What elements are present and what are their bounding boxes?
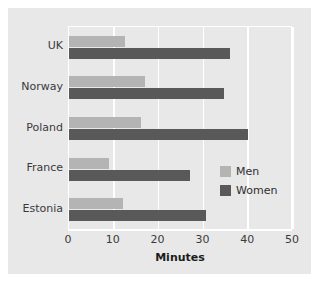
category-label-estonia: Estonia: [23, 202, 64, 215]
bar-group: [69, 76, 291, 99]
bar-men-france: [69, 158, 109, 169]
x-axis-line: [68, 229, 292, 231]
legend-label-men: Men: [236, 165, 259, 178]
bar-men-poland: [69, 117, 141, 128]
bar-group: [69, 36, 291, 59]
bar-group: [69, 117, 291, 140]
x-tick-label-10: 10: [106, 233, 120, 246]
bar-women-uk: [69, 48, 230, 59]
bar-women-norway: [69, 88, 224, 99]
legend-item-women: Women: [220, 181, 292, 200]
bar-men-estonia: [69, 198, 123, 209]
chart-legend: Men Women: [220, 160, 292, 202]
x-axis-title: Minutes: [68, 251, 292, 264]
bar-men-norway: [69, 76, 145, 87]
category-axis-labels: UKNorwayPolandFranceEstonia: [8, 26, 63, 229]
legend-item-men: Men: [220, 162, 292, 181]
legend-swatch-women: [220, 185, 231, 196]
bar-women-estonia: [69, 210, 206, 221]
x-tick-label-40: 40: [240, 233, 254, 246]
legend-label-women: Women: [236, 184, 277, 197]
category-label-poland: Poland: [26, 121, 63, 134]
gridline-50: [292, 27, 294, 229]
x-tick-label-0: 0: [65, 233, 72, 246]
legend-swatch-men: [220, 166, 231, 177]
category-label-uk: UK: [48, 39, 63, 52]
x-tick-label-30: 30: [195, 233, 209, 246]
bar-men-uk: [69, 36, 125, 47]
category-label-france: France: [26, 161, 63, 174]
category-label-norway: Norway: [21, 80, 63, 93]
x-tick-label-50: 50: [285, 233, 299, 246]
bar-women-poland: [69, 129, 248, 140]
bar-women-france: [69, 170, 190, 181]
x-tick-label-20: 20: [151, 233, 165, 246]
chart-figure: UKNorwayPolandFranceEstonia 01020304050 …: [8, 8, 311, 274]
